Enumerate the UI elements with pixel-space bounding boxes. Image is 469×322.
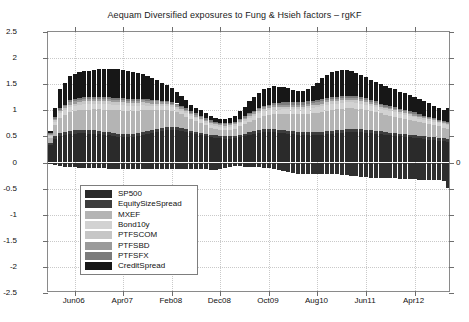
- bar-segment-ptfsbd: [359, 99, 363, 101]
- bar-segment-bond10y: [213, 126, 217, 129]
- bar-segment-mxef: [315, 113, 319, 132]
- bar-column: [417, 32, 421, 291]
- bar-segment-bond10y: [160, 106, 164, 110]
- bar-segment-ptfsfx: [335, 97, 339, 99]
- bar-column: [267, 32, 271, 291]
- bar-segment-sp500: [73, 134, 77, 163]
- bar-segment-creditspread: [170, 88, 174, 102]
- bar-segment-equitysizespread: [257, 130, 261, 133]
- bar-segment-ptfscom: [383, 108, 387, 110]
- bar-segment-negative: [213, 163, 217, 170]
- bar-segment-creditspread: [53, 108, 57, 117]
- bar-segment-ptfsfx: [58, 108, 62, 110]
- bar-segment-negative: [349, 163, 353, 176]
- bar-segment-ptfsbd: [111, 100, 115, 102]
- bar-segment-ptfscom: [68, 105, 72, 108]
- bar-segment-equitysizespread: [262, 129, 266, 132]
- bar-segment-ptfscom: [82, 101, 86, 104]
- bar-segment-creditspread: [412, 97, 416, 113]
- bar-segment-negative: [417, 163, 421, 180]
- bar-segment-negative: [223, 163, 227, 168]
- bar-segment-ptfscom: [247, 116, 251, 118]
- bar-segment-ptfsbd: [228, 124, 232, 126]
- bar-segment-ptfsfx: [238, 119, 242, 121]
- bar-segment-negative: [345, 163, 349, 176]
- bar-segment-equitysizespread: [252, 131, 256, 134]
- bar-segment-sp500: [320, 135, 324, 163]
- bar-column: [247, 32, 251, 291]
- bar-segment-creditspread: [155, 80, 159, 100]
- bar-segment-creditspread: [77, 72, 81, 98]
- legend: SP500EquitySizeSpreadMXEFBond10yPTFSCOMP…: [80, 185, 198, 275]
- bar-segment-mxef: [291, 114, 295, 131]
- bar-segment-equitysizespread: [199, 133, 203, 136]
- bar-segment-creditspread: [204, 113, 208, 118]
- y-axis-tick-right: [449, 267, 454, 268]
- y-axis-tick-right: [449, 293, 454, 294]
- bar-segment-sp500: [252, 134, 256, 162]
- bar-segment-equitysizespread: [374, 131, 378, 134]
- bar-segment-ptfscom: [296, 107, 300, 110]
- bar-segment-ptfscom: [432, 120, 436, 122]
- bar-segment-ptfsfx: [427, 117, 431, 118]
- bar-segment-sp500: [369, 133, 373, 162]
- bar-segment-equitysizespread: [58, 133, 62, 136]
- bar-segment-ptfsfx: [218, 123, 222, 124]
- bar-segment-sp500: [170, 130, 174, 162]
- bar-segment-ptfsfx: [63, 105, 67, 107]
- bar-segment-creditspread: [228, 118, 232, 123]
- bar-segment-bond10y: [286, 109, 290, 114]
- bar-segment-ptfscom: [417, 117, 421, 119]
- y-axis-tick: [43, 267, 48, 268]
- bar-segment-sp500: [340, 133, 344, 163]
- bar-segment-mxef: [262, 116, 266, 130]
- bar-segment-equitysizespread: [102, 132, 106, 135]
- bar-segment-ptfsbd: [354, 98, 358, 100]
- bar-segment-equitysizespread: [150, 130, 154, 133]
- bar-segment-creditspread: [136, 73, 140, 99]
- bar-segment-mxef: [330, 110, 334, 131]
- bar-segment-equitysizespread: [82, 130, 86, 134]
- bar-segment-ptfsfx: [73, 99, 77, 101]
- bar-segment-ptfscom: [107, 101, 111, 104]
- bar-segment-ptfsfx: [320, 99, 324, 101]
- bar-segment-bond10y: [262, 111, 266, 115]
- bar-segment-equitysizespread: [301, 132, 305, 135]
- bar-column: [228, 32, 232, 291]
- bar-segment-mxef: [349, 108, 353, 129]
- bar-segment-negative: [330, 163, 334, 174]
- y-axis-tick: [43, 58, 48, 59]
- bar-segment-ptfscom: [199, 119, 203, 121]
- bar-segment-mxef: [320, 112, 324, 132]
- bar-segment-equitysizespread: [354, 129, 358, 132]
- bar-segment-negative: [379, 163, 383, 179]
- bar-segment-mxef: [111, 110, 115, 133]
- bar-segment-equitysizespread: [213, 135, 217, 138]
- legend-item-ptfsfx: PTFSFX: [85, 251, 193, 261]
- bar-segment-equitysizespread: [379, 131, 383, 134]
- bar-segment-ptfscom: [315, 105, 319, 108]
- bar-segment-negative: [403, 163, 407, 179]
- bar-segment-negative: [408, 163, 412, 180]
- bar-segment-ptfsbd: [92, 99, 96, 101]
- bar-column: [286, 32, 290, 291]
- bar-segment-mxef: [325, 111, 329, 131]
- bar-segment-ptfscom: [281, 107, 285, 110]
- bar-segment-creditspread: [388, 88, 392, 106]
- bar-segment-sp500: [398, 136, 402, 162]
- bar-segment-bond10y: [345, 102, 349, 108]
- bar-segment-sp500: [131, 137, 135, 163]
- bar-column: [354, 32, 358, 291]
- bar-segment-sp500: [345, 132, 349, 162]
- bar-segment-sp500: [77, 133, 81, 162]
- bar-segment-ptfsfx: [277, 103, 281, 105]
- bar-segment-mxef: [369, 111, 373, 130]
- bar-segment-mxef: [97, 109, 101, 130]
- bar-segment-equitysizespread: [218, 136, 222, 139]
- bar-segment-ptfscom: [286, 107, 290, 110]
- bar-segment-ptfscom: [184, 111, 188, 113]
- bar-segment-creditspread: [311, 86, 315, 101]
- bar-segment-sp500: [155, 132, 159, 162]
- bar-segment-ptfsbd: [179, 107, 183, 109]
- bar-segment-equitysizespread: [286, 131, 290, 134]
